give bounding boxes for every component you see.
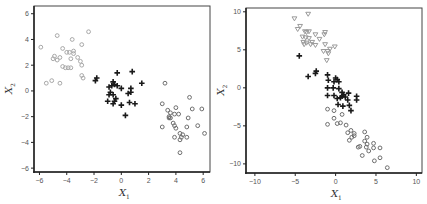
y-tick-label: −2	[21, 113, 29, 120]
y-tick-label: 0	[237, 84, 241, 91]
y-axis-label: X2	[3, 83, 16, 95]
plot-frame	[246, 8, 422, 173]
y-tick-label: −4	[21, 139, 29, 146]
x-tick-label: 2	[147, 177, 151, 184]
x-tick-label: −2	[90, 177, 98, 184]
y-tick-label: 4	[25, 36, 29, 43]
x-tick-label: 4	[174, 177, 178, 184]
y-tick-label: 6	[25, 10, 29, 17]
svg-text:2: 2	[221, 85, 228, 89]
left-scatter-plot: −6−4−20246−6−4−20246X1X2	[3, 6, 210, 200]
svg-text:1: 1	[338, 194, 342, 201]
scatter-plots-figure: −6−4−20246−6−4−20246X1X2 −10−50510−10−50…	[0, 0, 427, 204]
x-tick-label: −5	[291, 178, 299, 185]
x-tick-label: −6	[35, 177, 43, 184]
y-axis-label: X2	[215, 85, 228, 97]
right-scatter-plot: −10−50510−10−50510X1X2	[215, 8, 422, 201]
y-tick-label: −5	[233, 122, 241, 129]
x-tick-label: 6	[201, 177, 205, 184]
x-tick-label: 5	[374, 178, 378, 185]
y-tick-label: 0	[25, 87, 29, 94]
y-tick-label: 10	[233, 8, 241, 15]
x-tick-label: −4	[63, 177, 71, 184]
y-tick-label: 5	[237, 46, 241, 53]
x-tick-label: −10	[249, 178, 261, 185]
svg-text:1: 1	[126, 193, 130, 200]
y-tick-label: −10	[229, 160, 241, 167]
y-tick-label: 2	[25, 62, 29, 69]
svg-text:2: 2	[9, 83, 16, 87]
x-tick-label: 0	[334, 178, 338, 185]
x-tick-label: 10	[412, 178, 420, 185]
y-tick-label: −6	[21, 165, 29, 172]
x-tick-label: 0	[119, 177, 123, 184]
